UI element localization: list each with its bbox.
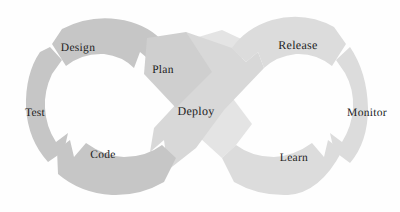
segment-label-plan: Plan	[152, 64, 174, 76]
segment-label-release: Release	[278, 38, 317, 53]
segment-label-learn: Learn	[280, 152, 308, 164]
segment-label-deploy: Deploy	[177, 104, 214, 119]
segment-label-monitor: Monitor	[347, 107, 387, 119]
segment-label-test: Test	[25, 107, 45, 119]
segment-label-design: Design	[61, 42, 95, 54]
devops-infinity-diagram: Design Test Code Plan Release Monitor Le…	[0, 0, 400, 212]
segment-label-code: Code	[90, 149, 115, 161]
